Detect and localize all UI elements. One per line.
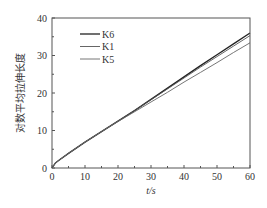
y-axis-label: 对数平均拉伸长度 bbox=[14, 53, 26, 133]
series-line-k5 bbox=[52, 43, 250, 168]
series-line-k6 bbox=[52, 33, 250, 168]
y-tick-label: 20 bbox=[37, 88, 47, 99]
y-tick-label: 0 bbox=[42, 163, 47, 174]
legend: K6K1K5 bbox=[80, 29, 114, 65]
x-tick-label: 50 bbox=[212, 171, 222, 182]
x-tick-label: 30 bbox=[146, 171, 156, 182]
y-tick-label: 10 bbox=[37, 125, 47, 136]
x-tick-label: 60 bbox=[245, 171, 255, 182]
legend-label-k1: K1 bbox=[102, 41, 114, 52]
plot-frame bbox=[52, 18, 250, 168]
x-tick-label: 0 bbox=[50, 171, 55, 182]
y-axis: 010203040 bbox=[37, 13, 55, 174]
legend-label-k5: K5 bbox=[102, 54, 114, 65]
x-tick-label: 10 bbox=[80, 171, 90, 182]
y-tick-label: 40 bbox=[37, 13, 47, 24]
plot-area bbox=[52, 33, 250, 168]
legend-label-k6: K6 bbox=[102, 29, 114, 40]
x-tick-label: 20 bbox=[113, 171, 123, 182]
x-tick-label: 40 bbox=[179, 171, 189, 182]
line-chart: 0102030405060 010203040 t/s 对数平均拉伸长度 K6K… bbox=[0, 0, 267, 208]
x-axis-label: t/s bbox=[146, 185, 156, 196]
y-tick-label: 30 bbox=[37, 50, 47, 61]
